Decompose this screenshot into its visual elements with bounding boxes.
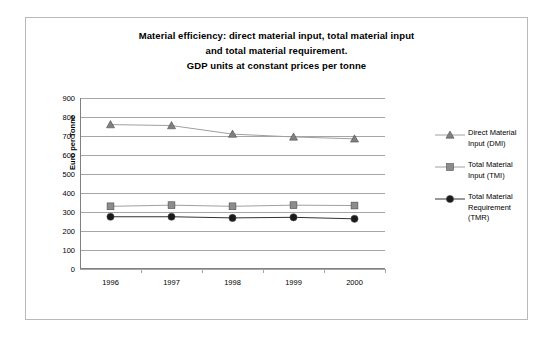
x-axis-tick [385, 269, 386, 273]
x-axis-tick-label: 1997 [163, 278, 180, 287]
legend-item-label: Total MaterialInput (TMI) [468, 160, 513, 181]
chart-title-line-1: Material efficiency: direct material inp… [26, 28, 527, 43]
x-axis-tick [202, 269, 203, 273]
y-axis-tick-label: 700 [62, 132, 75, 141]
legend-label-line: (TMR) [468, 213, 513, 224]
y-axis-tick-label: 100 [62, 246, 75, 255]
y-axis-tick-label: 400 [62, 189, 75, 198]
gridline [80, 269, 385, 270]
x-axis-tick-label: 1996 [102, 278, 119, 287]
y-axis-tick-label: 600 [62, 151, 75, 160]
square-marker-icon [435, 160, 465, 174]
legend-label-line: Total Material [468, 192, 513, 203]
series-layer [80, 98, 385, 269]
chart-title: Material efficiency: direct material inp… [26, 28, 527, 73]
legend-label-line: Direct Material [468, 128, 516, 139]
plot-area: 0100200300400500600700800900 19961997199… [80, 98, 385, 269]
y-axis-tick-label: 900 [62, 94, 75, 103]
legend-label-line: Input (TMI) [468, 171, 513, 182]
x-axis-tick-label: 1999 [285, 278, 302, 287]
legend-item[interactable]: Total MaterialInput (TMI) [435, 160, 550, 181]
legend-label-line: Input (DMI) [468, 139, 516, 150]
x-axis-tick [141, 269, 142, 273]
triangle-marker-icon [435, 128, 465, 142]
x-axis-tick [324, 269, 325, 273]
legend-label-line: Requirement [468, 203, 513, 214]
x-axis-tick [263, 269, 264, 273]
y-axis-tick-label: 200 [62, 227, 75, 236]
chart-legend: Direct MaterialInput (DMI)Total Material… [435, 128, 550, 235]
legend-label-line: Total Material [468, 160, 513, 171]
legend-item[interactable]: Direct MaterialInput (DMI) [435, 128, 550, 149]
series-triangle [107, 121, 359, 142]
legend-item[interactable]: Total MaterialRequirement(TMR) [435, 192, 550, 224]
legend-item-label: Total MaterialRequirement(TMR) [468, 192, 513, 224]
chart-title-line-3: GDP units at constant prices per tonne [26, 58, 527, 73]
series-circle [107, 213, 358, 222]
y-axis-tick-label: 800 [62, 113, 75, 122]
chart-frame: Material efficiency: direct material inp… [25, 17, 528, 320]
x-axis-tick-label: 2000 [346, 278, 363, 287]
x-axis-tick-label: 1998 [224, 278, 241, 287]
y-axis-tick-label: 500 [62, 170, 75, 179]
series-square [107, 202, 358, 210]
circle-marker-icon [435, 192, 465, 206]
y-axis-tick-label: 300 [62, 208, 75, 217]
legend-item-label: Direct MaterialInput (DMI) [468, 128, 516, 149]
y-axis-tick-label: 0 [71, 265, 75, 274]
chart-title-line-2: and total material requirement. [26, 43, 527, 58]
